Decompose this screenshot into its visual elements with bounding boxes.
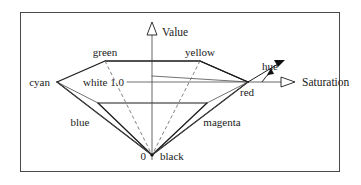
label-white: white 1.0 [83,76,124,88]
label-hue: hue [262,60,278,72]
value-axis-group [147,22,157,160]
magenta-to-black-edge [152,103,207,155]
hsv-hexcone-drawing: Value Saturation green yellow cyan red b… [0,0,361,185]
top-face-perspective-chord [152,76,248,82]
hsv-diagram-figure: Value Saturation green yellow cyan red b… [0,0,361,185]
label-red: red [240,86,255,98]
label-yellow: yellow [185,46,215,58]
triangle-right-outline-icon [281,77,295,87]
yellow-to-black-hidden-edge [152,61,200,155]
triangle-up-outline-icon [147,22,157,35]
saturation-axis-group [248,77,295,87]
yellow-red-edge [200,61,248,82]
label-green: green [93,46,118,58]
label-origin-zero: 0 [141,150,147,162]
saturation-axis-label: Saturation [302,76,350,88]
label-blue: blue [71,116,90,128]
black-apex-point [150,153,153,156]
blue-to-black-edge [98,103,152,155]
label-magenta: magenta [203,116,240,128]
label-black: black [160,150,184,162]
label-cyan: cyan [29,76,50,88]
value-axis-label: Value [162,26,188,38]
